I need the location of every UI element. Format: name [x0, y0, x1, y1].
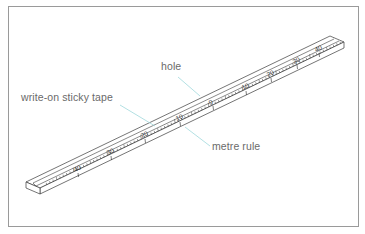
- metre-rule-drawing: 40302010010203040: [0, 0, 365, 234]
- metre-rule-label: metre rule: [212, 140, 260, 152]
- hole-label: hole: [161, 60, 181, 72]
- rule-leader: [185, 127, 210, 146]
- sticky-tape-label: write-on sticky tape: [21, 91, 113, 103]
- hole-leader: [178, 77, 200, 96]
- tape-leader: [120, 105, 155, 126]
